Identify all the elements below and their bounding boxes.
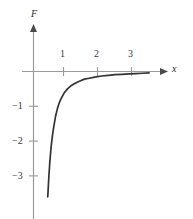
y-axis-arrow-icon <box>30 24 37 32</box>
y-tick-label-neg1: −1 <box>12 101 23 111</box>
x-tick-label-1: 1 <box>60 49 65 59</box>
y-axis-label: F <box>31 9 37 19</box>
x-tick-label-3: 3 <box>128 49 133 59</box>
x-axis-arrow-icon <box>160 68 168 75</box>
y-tick-label-neg2: −2 <box>12 136 23 146</box>
data-curve <box>48 73 149 197</box>
y-tick-label-neg3: −3 <box>12 171 23 181</box>
figure-container: F x 1 2 3 −1 −2 −3 <box>0 0 193 219</box>
chart-plot <box>0 0 193 219</box>
x-tick-label-2: 2 <box>94 49 99 59</box>
x-axis-label: x <box>172 64 176 74</box>
